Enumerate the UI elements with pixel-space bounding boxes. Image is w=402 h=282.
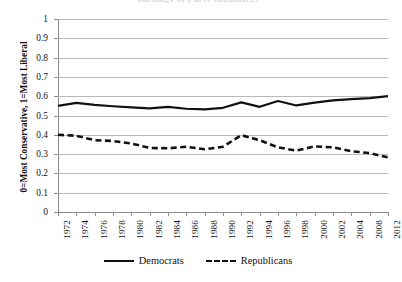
x-tick-label: 1994	[264, 220, 274, 239]
y-tick-label: 0.9	[22, 33, 48, 43]
x-tick-mark	[205, 212, 206, 216]
x-tick-label: 2012	[392, 220, 402, 239]
x-tick-mark	[223, 212, 224, 216]
x-tick-mark	[150, 212, 151, 216]
y-tick-label: 0.5	[22, 111, 48, 121]
y-tick-label: 0	[22, 207, 48, 217]
x-tick-label: 1974	[80, 220, 90, 239]
x-tick-label: 2000	[319, 220, 329, 239]
x-tick-label: 1982	[154, 220, 164, 239]
x-tick-label: 1990	[227, 220, 237, 239]
x-tick-label: 1998	[300, 220, 310, 239]
x-tick-label: 2004	[355, 220, 365, 239]
y-tick-label: 0.1	[22, 188, 48, 198]
x-tick-label: 1996	[282, 220, 292, 239]
x-tick-label: 1976	[99, 220, 109, 239]
x-tick-label: 1992	[245, 220, 255, 239]
y-tick-label: 0.8	[22, 53, 48, 63]
legend-swatch-dashed-icon	[206, 260, 236, 262]
chart-legend: DemocratsRepublicans	[0, 255, 396, 266]
y-tick-label: 0.6	[22, 91, 48, 101]
legend-entry-republicans: Republicans	[206, 255, 292, 266]
y-tick-label: 0.7	[22, 72, 48, 82]
x-tick-mark	[58, 212, 59, 216]
series-line-republicans	[58, 135, 388, 158]
legend-entry-democrats: Democrats	[104, 255, 184, 266]
x-tick-label: 1980	[135, 220, 145, 239]
x-tick-mark	[76, 212, 77, 216]
series-line-democrats	[58, 96, 388, 109]
plot-area: 10.90.80.70.60.50.40.30.20.10 1972197419…	[58, 19, 388, 212]
x-tick-label: 2008	[374, 220, 384, 239]
x-tick-mark	[388, 212, 389, 216]
legend-swatch-solid-icon	[104, 260, 134, 262]
x-tick-mark	[131, 212, 132, 216]
x-tick-mark	[333, 212, 334, 216]
y-tick-label: 0.4	[22, 130, 48, 140]
x-tick-mark	[241, 212, 242, 216]
series-plot	[58, 19, 388, 212]
x-tick-label: 1978	[117, 220, 127, 239]
x-tick-label: 1988	[209, 220, 219, 239]
x-tick-mark	[168, 212, 169, 216]
chart-title: Ideology of Party Identifiers	[0, 0, 396, 3]
y-tick-label: 0.2	[22, 168, 48, 178]
x-tick-label: 1984	[172, 220, 182, 239]
x-tick-mark	[95, 212, 96, 216]
x-tick-label: 2002	[337, 220, 347, 239]
x-tick-label: 1986	[190, 220, 200, 239]
y-tick-label: 1	[22, 14, 48, 24]
x-tick-mark	[278, 212, 279, 216]
x-tick-mark	[296, 212, 297, 216]
legend-label: Republicans	[241, 255, 292, 266]
x-tick-mark	[186, 212, 187, 216]
x-tick-mark	[315, 212, 316, 216]
x-tick-mark	[113, 212, 114, 216]
x-tick-mark	[260, 212, 261, 216]
x-tick-mark	[370, 212, 371, 216]
x-tick-mark	[351, 212, 352, 216]
x-tick-label: 1972	[62, 220, 72, 239]
y-tick-label: 0.3	[22, 149, 48, 159]
legend-label: Democrats	[139, 255, 184, 266]
